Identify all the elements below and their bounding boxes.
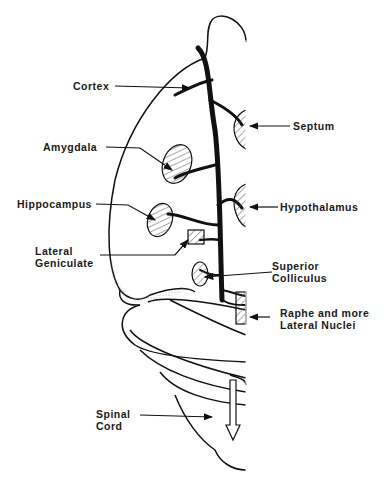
raphe-nucleus xyxy=(236,292,246,324)
label-raphe-2: Lateral Nuclei xyxy=(280,319,356,331)
label-superior-colliculus-2: Colliculus xyxy=(272,272,327,284)
hypothalamus-nucleus xyxy=(234,184,246,227)
label-spinal-cord-2: Cord xyxy=(96,420,123,432)
leader-lines xyxy=(96,86,290,417)
lateral-geniculate-nucleus xyxy=(188,230,204,244)
label-superior-colliculus-1: Superior xyxy=(272,260,319,272)
brain-outline xyxy=(109,16,246,470)
label-cortex: Cortex xyxy=(73,80,109,92)
label-amygdala: Amygdala xyxy=(43,141,97,153)
label-hypothalamus: Hypothalamus xyxy=(280,201,358,213)
label-hippocampus: Hippocampus xyxy=(17,198,92,210)
label-lateral-geniculate-1: Lateral xyxy=(35,245,73,257)
superior-colliculus-nucleus xyxy=(192,262,208,286)
label-spinal-cord-1: Spinal xyxy=(96,408,131,420)
hippocampus-nucleus xyxy=(143,200,177,240)
label-septum: Septum xyxy=(293,120,335,132)
label-raphe-1: Raphe and more xyxy=(280,307,369,319)
brain-diagram xyxy=(0,0,385,485)
label-lateral-geniculate-2: Geniculate xyxy=(35,257,94,269)
